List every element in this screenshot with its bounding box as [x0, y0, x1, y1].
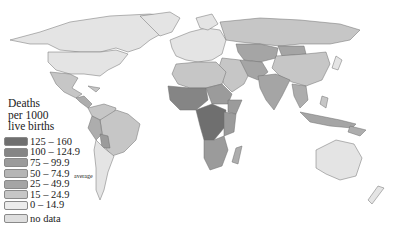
legend-label: 0 – 14.9: [30, 200, 64, 210]
region-south-asia: [258, 74, 290, 110]
legend-item: 0 – 14.9: [4, 200, 114, 211]
region-europe: [170, 28, 226, 62]
region-north-africa: [172, 62, 226, 88]
legend-swatch: [4, 180, 28, 189]
region-central-africa: [196, 104, 226, 140]
legend-item: 25 – 49.9: [4, 179, 114, 190]
legend-swatch: [4, 137, 28, 146]
region-caribbean: [88, 86, 100, 92]
legend-label: 125 – 160: [30, 137, 72, 147]
legend-label: 100 – 124.9: [30, 147, 80, 157]
region-mexico: [50, 72, 82, 98]
legend-label: 50 – 74.9: [30, 169, 69, 179]
region-new-zealand: [368, 186, 384, 204]
region-russia: [220, 18, 360, 46]
legend-label: 25 – 49.9: [30, 179, 69, 189]
region-southeast-asia: [292, 84, 308, 108]
legend-label: 15 – 24.9: [30, 190, 69, 200]
region-central-asia: [236, 44, 278, 62]
legend-title-line: Deaths: [8, 98, 114, 110]
region-horn-of-africa: [228, 100, 242, 114]
legend-title-line: live births: [8, 121, 114, 133]
legend-items: 125 – 160 100 – 124.9 75 – 99.9 50 – 74.…: [4, 137, 114, 225]
region-australia: [316, 140, 362, 180]
legend-label: no data: [30, 214, 61, 224]
legend-swatch: [4, 158, 28, 167]
region-southern-africa: [204, 136, 228, 170]
region-east-africa: [224, 112, 236, 136]
region-madagascar: [232, 146, 242, 164]
legend-item: 75 – 99.9: [4, 158, 114, 169]
region-japan: [332, 56, 342, 70]
legend-item-no-data: no data: [4, 214, 114, 225]
legend-title: Deaths per 1000 live births: [8, 98, 114, 133]
region-papua: [348, 126, 366, 136]
legend-label: 75 – 99.9: [30, 158, 69, 168]
legend-swatch: [4, 169, 28, 178]
legend-swatch: [4, 190, 28, 199]
region-philippines: [320, 96, 328, 108]
region-indonesia: [300, 112, 356, 128]
legend-swatch: [4, 214, 28, 223]
region-scandinavia: [196, 14, 218, 30]
legend-swatch: [4, 148, 28, 157]
legend-swatch: [4, 201, 28, 210]
legend: Deaths per 1000 live births 125 – 160 10…: [4, 98, 114, 224]
region-usa: [48, 50, 128, 76]
region-west-africa: [168, 86, 208, 110]
